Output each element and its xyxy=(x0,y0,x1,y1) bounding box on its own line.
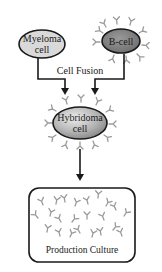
myeloma-label-line1: Myeloma xyxy=(23,33,62,44)
culture-arrow xyxy=(76,149,84,181)
myeloma-cell-node: Myeloma cell xyxy=(19,30,65,58)
hybridoma-cell-node: Hybridoma cell xyxy=(45,95,116,149)
myeloma-label-line2: cell xyxy=(35,44,50,55)
arrow-down-icon xyxy=(61,88,69,95)
hybridoma-diagram: Myeloma cell B-cell Cell Fusion xyxy=(0,0,162,272)
arrow-down-icon xyxy=(91,88,99,95)
b-cell-label: B-cell xyxy=(109,36,134,47)
b-cell-node: B-cell xyxy=(93,17,149,63)
production-culture-label: Production Culture xyxy=(46,245,119,255)
hybridoma-label-line1: Hybridoma xyxy=(57,112,103,123)
cell-fusion-label: Cell Fusion xyxy=(57,65,103,76)
production-culture-node: Production Culture xyxy=(29,188,135,262)
arrow-down-icon xyxy=(76,174,84,181)
hybridoma-label-line2: cell xyxy=(73,123,88,134)
fusion-arrowheads xyxy=(61,88,99,95)
